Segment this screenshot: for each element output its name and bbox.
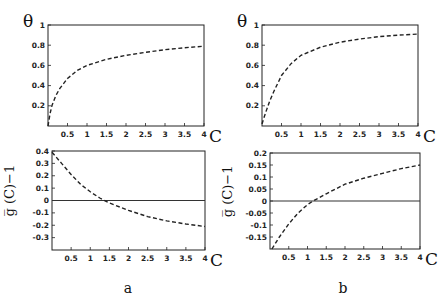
y-tick-label: 0.3	[36, 159, 49, 168]
x-axis-label: C	[425, 249, 438, 269]
x-tick-label: 2	[342, 253, 347, 262]
y-tick-label: -0.05	[245, 209, 267, 218]
y-tick-label: 0.8	[246, 41, 259, 50]
figure: 0.511.522.533.540.20.40.60.81Cθ0.511.522…	[0, 0, 447, 303]
y-tick-label: 0.2	[32, 101, 45, 110]
x-tick-label: 2.5	[139, 130, 152, 139]
x-tick-label: 1.5	[100, 130, 113, 139]
y-tick-label: 0.4	[32, 81, 45, 90]
y-tick-label: 0	[44, 196, 49, 205]
y-tick-label: 1	[40, 21, 45, 30]
x-tick-label: 0.5	[64, 254, 77, 263]
plot-b_bottom: 0.511.522.533.54-0.15-0.1-0.0500.050.10.…	[220, 149, 438, 270]
dashed-curve	[272, 165, 420, 249]
x-tick-label: 3	[380, 253, 385, 262]
y-tick-label: 0.4	[36, 147, 49, 156]
x-tick-label: 2	[126, 254, 131, 263]
y-tick-label: 1	[254, 21, 259, 30]
y-tick-label: -0.3	[33, 233, 49, 242]
y-tick-label: 0.4	[246, 81, 259, 90]
y-axis-label: g̅ (C)−1	[2, 165, 17, 217]
dashed-curve	[262, 34, 418, 124]
y-axis-label: θ	[23, 11, 33, 31]
x-tick-label: 2.5	[357, 253, 370, 262]
y-tick-label: -0.2	[33, 221, 49, 230]
x-tick-label: 1.5	[314, 130, 327, 139]
x-tick-label: 3	[162, 130, 167, 139]
plot-a_top: 0.511.522.533.540.20.40.60.81Cθ	[23, 11, 222, 146]
plot-b_top: 0.511.522.533.540.20.40.60.81Cθ	[237, 11, 436, 146]
x-tick-label: 4	[202, 254, 207, 263]
dashed-curve	[52, 152, 205, 226]
y-tick-label: -0.15	[245, 233, 267, 242]
x-tick-label: 4	[201, 130, 206, 139]
x-tick-label: 0.5	[61, 130, 74, 139]
y-tick-label: 0.2	[246, 101, 259, 110]
x-tick-label: 0.5	[282, 253, 295, 262]
x-tick-label: 2	[123, 130, 128, 139]
x-tick-label: 2.5	[353, 130, 366, 139]
y-tick-label: 0.2	[36, 171, 49, 180]
panel-label-a: a	[124, 280, 132, 296]
y-tick-label: 0	[262, 197, 267, 206]
x-tick-label: 0.5	[275, 130, 288, 139]
x-tick-label: 1.5	[103, 254, 116, 263]
y-tick-label: 0.1	[36, 184, 49, 193]
x-tick-label: 1.5	[320, 253, 333, 262]
dashed-curve	[48, 46, 204, 126]
y-tick-label: 0.6	[246, 61, 259, 70]
x-tick-label: 3.5	[395, 253, 408, 262]
x-axis-label: C	[210, 250, 223, 270]
panel-label-b: b	[339, 280, 348, 296]
x-tick-label: 1	[298, 130, 303, 139]
y-tick-label: 0.8	[32, 41, 45, 50]
y-tick-label: 0.1	[254, 173, 267, 182]
x-tick-label: 1	[84, 130, 89, 139]
x-tick-label: 3.5	[179, 254, 192, 263]
plot-frame	[262, 25, 418, 126]
x-tick-label: 3	[376, 130, 381, 139]
y-tick-label: -0.1	[33, 208, 49, 217]
plot-frame	[48, 25, 204, 126]
x-tick-label: 3.5	[178, 130, 191, 139]
x-axis-label: C	[423, 126, 436, 146]
x-tick-label: 4	[417, 253, 422, 262]
x-tick-label: 1	[88, 254, 93, 263]
plot-a_bottom: 0.511.522.533.54-0.3-0.2-0.100.10.20.30.…	[2, 147, 223, 271]
y-tick-label: -0.1	[251, 221, 267, 230]
x-tick-label: 2.5	[141, 254, 154, 263]
y-tick-label: 0.05	[248, 185, 267, 194]
y-axis-label: θ	[237, 11, 247, 31]
x-tick-label: 1	[305, 253, 310, 262]
x-tick-label: 4	[415, 130, 420, 139]
y-tick-label: 0.2	[254, 149, 267, 158]
x-tick-label: 3	[164, 254, 169, 263]
x-tick-label: 2	[337, 130, 342, 139]
y-tick-label: 0.6	[32, 61, 45, 70]
x-tick-label: 3.5	[392, 130, 405, 139]
y-tick-label: 0.15	[248, 161, 267, 170]
x-axis-label: C	[209, 126, 222, 146]
y-axis-label: g̅ (C)−1	[220, 166, 235, 218]
